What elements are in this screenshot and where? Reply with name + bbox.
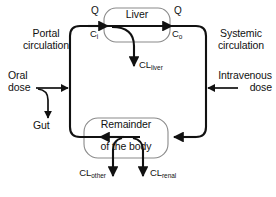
portal-circulation-label: Portalcirculation	[18, 28, 74, 52]
iv-dose-line2: dose	[250, 81, 272, 93]
systemic-circulation-line1: Systemic	[220, 27, 262, 39]
systemic-circulation-label: Systemiccirculation	[208, 28, 274, 52]
liver-label: Liver	[104, 9, 170, 21]
renal-clearance-base: CL	[150, 167, 162, 178]
iv-dose-label: Intravenousdose	[188, 70, 272, 94]
renal-clearance-label: CLrenal	[150, 168, 176, 179]
systemic-circulation-line2: circulation	[218, 39, 264, 51]
c-outlet-base: C	[172, 28, 179, 39]
renal-clearance-subscript: renal	[162, 172, 176, 179]
portal-circulation-line1: Portal	[33, 27, 60, 39]
oral-dose-line2: dose	[8, 81, 30, 93]
q-inlet-label: Q	[91, 5, 99, 16]
pk-diagram: Liver Q Ci Q Co CLliver Portalcirculatio…	[0, 0, 276, 197]
remainder-label-line2: of the body	[84, 141, 168, 153]
liver-clearance-label: CLliver	[139, 60, 163, 71]
oral-dose-label: Oraldose	[8, 70, 30, 94]
c-outlet-subscript: o	[179, 33, 183, 40]
liver-clearance-subscript: liver	[151, 64, 163, 71]
iv-dose-line1: Intravenous	[218, 69, 272, 81]
c-inlet-label: Ci	[90, 29, 98, 40]
c-inlet-base: C	[90, 28, 97, 39]
gut-branch-arrow	[38, 89, 48, 118]
liver-clearance-base: CL	[139, 59, 151, 70]
c-outlet-label: Co	[172, 29, 182, 40]
oral-dose-line1: Oral	[8, 69, 27, 81]
q-outlet-label: Q	[174, 5, 182, 16]
portal-circulation-line2: circulation	[23, 39, 69, 51]
liver-clearance-arrow	[112, 27, 134, 66]
other-clearance-base: CL	[79, 167, 91, 178]
remainder-label-line1: Remainder	[84, 119, 168, 131]
other-clearance-label: CLother	[48, 168, 106, 179]
c-inlet-subscript: i	[97, 33, 98, 40]
gut-label: Gut	[33, 120, 50, 132]
other-clearance-subscript: other	[91, 172, 106, 179]
